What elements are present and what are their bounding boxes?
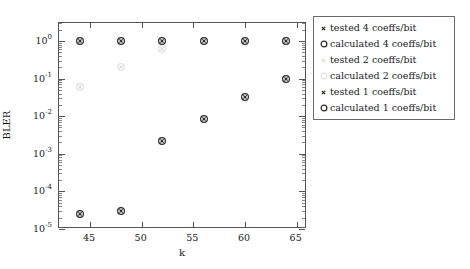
y-tick-minor-right: [302, 45, 305, 46]
data-point-circle: [75, 82, 84, 91]
y-tick-minor-left: [59, 197, 62, 198]
y-tick-minor-right: [302, 118, 305, 119]
x-tick-major-bottom: [193, 222, 194, 227]
y-tick-minor-right: [302, 49, 305, 50]
y-axis-title: BLER: [1, 111, 12, 140]
y-tick-minor-left: [59, 195, 62, 196]
y-tick-label: 10-3: [4, 147, 52, 158]
data-point-circle: [158, 45, 167, 54]
legend-item[interactable]: tested 1 coeffs/bit: [317, 84, 450, 100]
x-tick-major-bottom: [142, 222, 143, 227]
y-tick-major-right: [299, 229, 305, 230]
y-tick-minor-left: [59, 45, 62, 46]
data-point-circle: [117, 207, 126, 216]
x-tick-label: 65: [290, 232, 302, 243]
x-tick-major-top: [142, 23, 143, 28]
data-point-circle: [75, 210, 84, 219]
y-tick-minor-left: [59, 155, 62, 156]
y-tick-minor-left: [59, 122, 62, 123]
y-tick-minor-left: [59, 200, 62, 201]
y-tick-minor-left: [59, 84, 62, 85]
y-tick-minor-right: [302, 105, 305, 106]
y-tick-minor-right: [302, 43, 305, 44]
y-tick-minor-left: [59, 165, 62, 166]
y-tick-minor-left: [59, 94, 62, 95]
y-tick-label: 10-5: [4, 223, 52, 234]
y-tick-minor-right: [302, 197, 305, 198]
x-tick-major-top: [193, 23, 194, 28]
y-tick-minor-right: [302, 173, 305, 174]
y-tick-minor-left: [59, 30, 62, 31]
y-tick-minor-left: [59, 136, 62, 137]
y-tick-minor-right: [302, 160, 305, 161]
data-point-circle: [199, 36, 208, 45]
y-tick-minor-right: [302, 211, 305, 212]
y-tick-minor-right: [302, 193, 305, 194]
y-tick-minor-right: [302, 90, 305, 91]
y-tick-minor-left: [59, 173, 62, 174]
legend-item-label: calculated 4 coeffs/bit: [330, 39, 436, 49]
y-tick-minor-right: [302, 61, 305, 62]
y-tick-minor-left: [59, 56, 62, 57]
y-tick-minor-left: [59, 203, 62, 204]
y-tick-minor-right: [302, 200, 305, 201]
data-point-circle: [75, 36, 84, 45]
y-tick-minor-right: [302, 52, 305, 53]
plot-area: [58, 22, 306, 228]
legend-item-label: tested 4 coeffs/bit: [330, 23, 416, 33]
y-tick-minor-left: [59, 127, 62, 128]
legend-marker-circle-icon: [317, 38, 330, 51]
y-tick-minor-left: [59, 157, 62, 158]
chart-legend: tested 4 coeffs/bitcalculated 4 coeffs/b…: [313, 16, 455, 120]
y-tick-minor-right: [302, 56, 305, 57]
y-tick-minor-left: [59, 193, 62, 194]
y-tick-minor-right: [302, 84, 305, 85]
y-tick-minor-right: [302, 162, 305, 163]
x-tick-major-bottom: [297, 222, 298, 227]
x-tick-label: 50: [135, 232, 147, 243]
y-tick-minor-left: [59, 52, 62, 53]
legend-marker-circle-icon: [317, 102, 330, 115]
y-tick-minor-right: [302, 94, 305, 95]
y-tick-minor-right: [302, 218, 305, 219]
data-point-circle: [158, 136, 167, 145]
y-tick-minor-right: [302, 82, 305, 83]
y-tick-minor-right: [302, 67, 305, 68]
legend-marker-cross-icon: [317, 54, 330, 67]
data-point-circle: [282, 36, 291, 45]
y-tick-minor-right: [302, 206, 305, 207]
legend-item[interactable]: calculated 4 coeffs/bit: [317, 36, 450, 52]
x-tick-major-bottom: [90, 222, 91, 227]
y-tick-minor-left: [59, 61, 62, 62]
y-tick-minor-left: [59, 162, 62, 163]
y-tick-minor-right: [302, 136, 305, 137]
y-tick-minor-right: [302, 127, 305, 128]
y-tick-minor-left: [59, 87, 62, 88]
legend-item[interactable]: calculated 1 coeffs/bit: [317, 100, 450, 116]
y-tick-minor-right: [302, 155, 305, 156]
y-tick-minor-right: [302, 131, 305, 132]
y-tick-minor-left: [59, 23, 62, 24]
legend-item[interactable]: tested 4 coeffs/bit: [317, 20, 450, 36]
y-tick-minor-left: [59, 80, 62, 81]
y-tick-minor-right: [302, 165, 305, 166]
y-tick-major-left: [59, 229, 65, 230]
y-tick-minor-left: [59, 180, 62, 181]
legend-marker-cross-icon: [317, 22, 330, 35]
y-tick-minor-left: [59, 47, 62, 48]
legend-item-label: tested 1 coeffs/bit: [330, 87, 416, 97]
data-point-circle: [241, 92, 250, 101]
y-tick-minor-left: [59, 142, 62, 143]
legend-item[interactable]: tested 2 coeffs/bit: [317, 52, 450, 68]
y-tick-minor-left: [59, 160, 62, 161]
y-tick-minor-left: [59, 206, 62, 207]
legend-marker-circle-icon: [317, 70, 330, 83]
y-tick-minor-right: [302, 122, 305, 123]
y-tick-minor-right: [302, 203, 305, 204]
y-tick-minor-left: [59, 118, 62, 119]
legend-marker-cross-icon: [317, 86, 330, 99]
y-tick-minor-right: [302, 47, 305, 48]
y-tick-label: 100: [4, 34, 52, 45]
legend-item[interactable]: calculated 2 coeffs/bit: [317, 68, 450, 84]
y-tick-minor-right: [302, 30, 305, 31]
